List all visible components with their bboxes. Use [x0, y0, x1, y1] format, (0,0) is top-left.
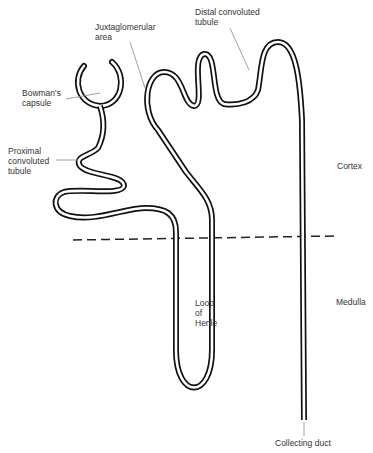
- leader-juxtaglomerular: [130, 42, 145, 88]
- label-distal-convoluted-tubule: Distal convoluted tubule: [195, 7, 260, 27]
- cortex-medulla-boundary: [73, 236, 335, 240]
- label-juxtaglomerular-area: Juxtaglomerular area: [95, 22, 155, 42]
- nephron-diagram: Juxtaglomerular area Distal convoluted t…: [0, 0, 373, 453]
- label-proximal-convoluted-tubule: Proximal convoluted tubule: [8, 146, 49, 176]
- label-medulla: Medulla: [336, 297, 366, 307]
- leader-distal: [230, 28, 249, 70]
- label-bowmans-capsule: Bowman's capsule: [22, 88, 61, 108]
- label-cortex: Cortex: [337, 161, 362, 171]
- label-loop-of-henle: Loop of Henle: [195, 298, 217, 328]
- nephron-drawing: [0, 0, 373, 453]
- nephron-tubule: [56, 42, 304, 420]
- label-collecting-duct: Collecting duct: [275, 438, 331, 448]
